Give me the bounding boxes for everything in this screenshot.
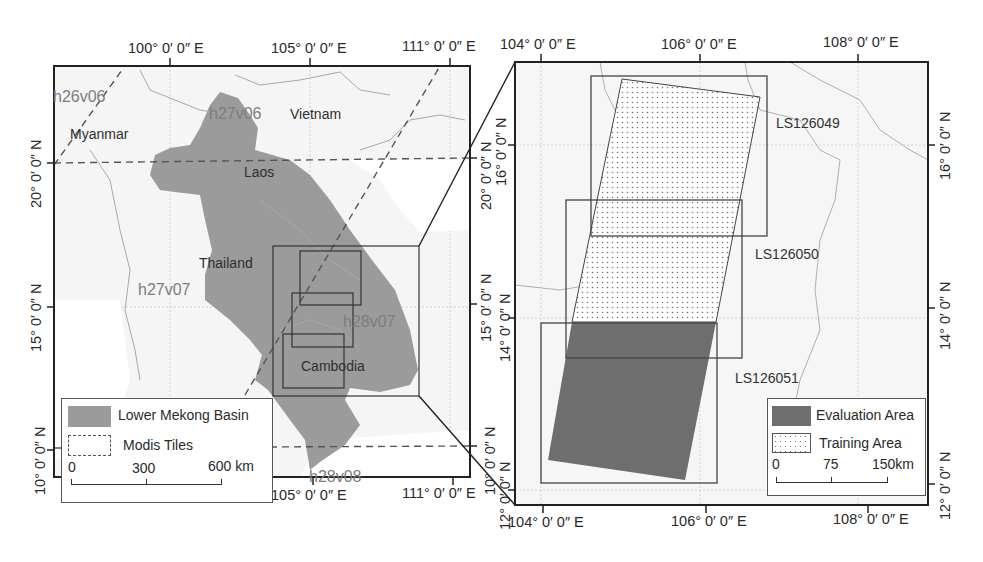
scale-0: 0 <box>772 456 780 472</box>
left-lat-15n: 15° 0′ 0″ N <box>28 284 44 352</box>
legend-training-label: Training Area <box>819 435 902 451</box>
right-top-tick-108e: 108° 0′ 0″ E <box>823 34 899 50</box>
scene-ls126051: LS126051 <box>735 370 799 386</box>
right-left-lat-12n: 12° 0′ 0″ N <box>497 462 513 530</box>
left-right-lat-15n: 15° 0′ 0″ N <box>478 274 494 342</box>
right-right-lat-14n: 14° 0′ 0″ N <box>937 282 953 350</box>
country-laos: Laos <box>244 164 274 180</box>
right-top-tick-106e: 106° 0′ 0″ E <box>661 36 737 52</box>
tile-h26v06: h26v06 <box>53 88 106 106</box>
right-right-lat-16n: 16° 0′ 0″ N <box>937 112 953 180</box>
scale-75: 75 <box>823 456 839 472</box>
basin-swatch <box>68 406 111 427</box>
scale-bar-mid-tick <box>146 479 147 485</box>
tile-h27v06: h27v06 <box>209 105 262 123</box>
evaluation-swatch <box>772 406 811 426</box>
right-bottom-tick-104e: 104° 0′ 0″ E <box>508 514 584 530</box>
right-left-lat-14n: 14° 0′ 0″ N <box>497 294 513 362</box>
scale-150: 150km <box>872 456 914 472</box>
left-bottom-tick-111e: 111° 0′ 0″ E <box>402 485 476 501</box>
legend-basin-label: Lower Mekong Basin <box>118 407 249 423</box>
scale-bar-mid-tick <box>831 477 832 483</box>
left-lat-20n: 20° 0′ 0″ N <box>28 140 44 208</box>
right-left-lat-16n: 16° 0′ 0″ N <box>493 118 509 186</box>
country-thailand: Thailand <box>199 255 253 271</box>
scene-ls126050: LS126050 <box>755 246 819 262</box>
scale-300: 300 <box>132 460 155 476</box>
right-bottom-tick-108e: 108° 0′ 0″ E <box>833 511 909 527</box>
left-top-tick-111e: 111° 0′ 0″ E <box>402 38 476 54</box>
scene-ls126049: LS126049 <box>776 115 840 131</box>
right-bottom-tick-106e: 106° 0′ 0″ E <box>671 513 747 529</box>
tiles-swatch <box>68 435 111 456</box>
legend-tiles-label: Modis Tiles <box>123 437 193 453</box>
left-right-lat-20n: 20° 0′ 0″ N <box>478 142 494 210</box>
left-top-tick-100e: 100° 0′ 0″ E <box>128 40 204 56</box>
left-bottom-tick-105e: 105° 0′ 0″ E <box>271 487 347 503</box>
legend-evaluation-label: Evaluation Area <box>816 407 914 423</box>
left-right-lat-10n: 10° 0′ 0″ N <box>482 427 498 495</box>
tile-h27v07: h27v07 <box>138 281 191 299</box>
left-lat-10n: 10° 0′ 0″ N <box>32 427 48 495</box>
country-vietnam: Vietnam <box>290 106 341 122</box>
left-top-tick-105e: 105° 0′ 0″ E <box>271 40 347 56</box>
tile-h28v08: h28v08 <box>309 468 362 486</box>
right-top-tick-104e: 104° 0′ 0″ E <box>500 36 576 52</box>
country-cambodia: Cambodia <box>301 358 365 374</box>
country-myanmar: Myanmar <box>70 126 128 142</box>
right-right-lat-12n: 12° 0′ 0″ N <box>937 452 953 520</box>
scale-600: 600 km <box>208 458 254 474</box>
training-swatch <box>772 433 811 453</box>
scale-0: 0 <box>68 459 76 475</box>
left-legend: Lower Mekong Basin Modis Tiles 0 300 600… <box>61 398 273 503</box>
right-legend: Evaluation Area Training Area 0 75 150km <box>767 398 926 496</box>
tile-h28v07: h28v07 <box>343 313 396 331</box>
